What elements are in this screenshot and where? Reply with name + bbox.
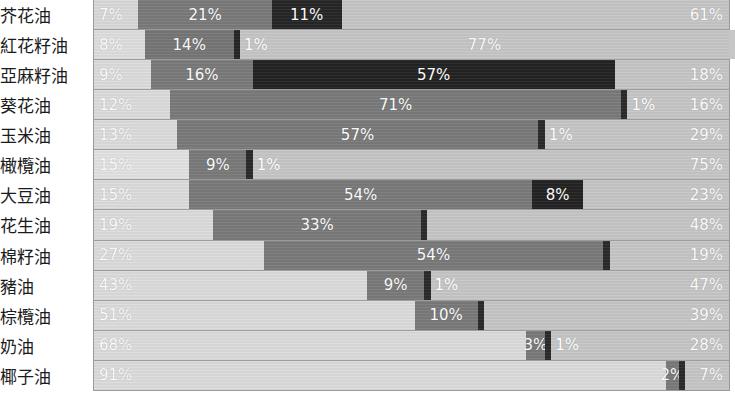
bar-segment: 11% (272, 0, 342, 29)
segment-value-label: 13% (99, 126, 132, 144)
chart-row: 豬油43%9%1%47%1% (0, 271, 730, 300)
segment-value-label: 47% (690, 276, 723, 294)
bar-segment: 77% (240, 30, 729, 59)
stacked-bar: 8%14%1%77%1%1% (93, 30, 730, 59)
bar-segment: 47% (431, 271, 729, 300)
bar-segment: 18% (615, 60, 729, 89)
segment-value-label: 9% (206, 156, 230, 174)
segment-value-label: 19% (99, 216, 132, 234)
stacked-bar: 51%10%39% (93, 301, 730, 330)
bar-segment: 68% (94, 331, 526, 360)
segment-value-label: 75% (690, 156, 723, 174)
segment-value-label: 8% (546, 186, 570, 204)
stacked-bar: 7%21%11%61% (93, 0, 730, 29)
chart-row: 橄欖油15%9%1%75%1% (0, 150, 730, 179)
segment-value-label: 8% (99, 36, 123, 54)
segment-value-label: 57% (417, 66, 450, 84)
segment-value-label: 23% (690, 186, 723, 204)
category-label: 奶油 (0, 331, 93, 360)
segment-value-label: 54% (344, 186, 377, 204)
category-label: 芥花油 (0, 0, 93, 29)
segment-value-label: 14% (173, 36, 206, 54)
segment-value-label: 11% (290, 6, 323, 24)
stacked-bar: 43%9%1%47%1% (93, 271, 730, 300)
chart-row: 花生油19%33%48% (0, 210, 730, 239)
category-label: 大豆油 (0, 180, 93, 209)
category-label: 棕欖油 (0, 301, 93, 330)
segment-value-label: 61% (690, 6, 723, 24)
bar-segment: 14% (145, 30, 234, 59)
chart-row: 奶油68%3%1%28%1% (0, 331, 730, 360)
category-label: 橄欖油 (0, 150, 93, 179)
bar-segment: 57% (253, 60, 615, 89)
segment-value-label: 18% (690, 66, 723, 84)
bar-segment: 54% (189, 180, 532, 209)
segment-value-label: 7% (99, 6, 123, 24)
stacked-bar: 9%16%57%18% (93, 60, 730, 89)
bar-segment: 19% (610, 241, 729, 270)
category-label: 亞麻籽油 (0, 60, 93, 89)
bar-segment: 16% (151, 60, 253, 89)
segment-value-label: 12% (99, 96, 132, 114)
segment-value-label: 9% (99, 66, 123, 84)
stacked-bar: 19%33%48% (93, 210, 730, 239)
bar-segment: 51% (94, 301, 415, 330)
chart-row: 紅花籽油8%14%1%77%1%1% (0, 30, 730, 59)
segment-value-label: 54% (417, 246, 450, 264)
bar-segment: 8% (94, 30, 145, 59)
chart-row: 葵花油12%71%1%16%1% (0, 90, 730, 119)
stacked-bar: 15%9%1%75%1% (93, 150, 730, 179)
segment-value-label: 51% (99, 306, 132, 324)
bar-segment: 15% (94, 180, 189, 209)
chart-rows-container: 芥花油7%21%11%61%紅花籽油8%14%1%77%1%1%亞麻籽油9%16… (0, 0, 730, 391)
bar-segment: 9% (367, 271, 424, 300)
segment-value-label: 29% (690, 126, 723, 144)
segment-value-label: 43% (99, 276, 132, 294)
stacked-bar: 12%71%1%16%1% (93, 90, 730, 119)
bar-segment: 43% (94, 271, 367, 300)
segment-value-label: 21% (188, 6, 221, 24)
bar-segment: 27% (94, 241, 264, 270)
segment-value-label: 71% (379, 96, 412, 114)
segment-value-label: 16% (690, 96, 723, 114)
bar-segment: 9% (94, 60, 151, 89)
stacked-bar: 27%54%19% (93, 241, 730, 270)
segment-value-label: 27% (99, 246, 132, 264)
chart-row: 棕欖油51%10%39% (0, 301, 730, 330)
segment-value-label: 68% (99, 336, 132, 354)
bar-segment: 29% (545, 120, 729, 149)
bar-segment: 33% (213, 210, 420, 239)
segment-value-label: 16% (185, 66, 218, 84)
bar-segment: 8% (532, 180, 583, 209)
bar-segment: 57% (177, 120, 539, 149)
stacked-bar: 15%54%8%23% (93, 180, 730, 209)
chart-row: 亞麻籽油9%16%57%18% (0, 60, 730, 89)
bar-segment: 48% (427, 210, 729, 239)
bar-segment: 16% (627, 90, 729, 119)
segment-value-label: 10% (429, 306, 462, 324)
chart-axis-area (93, 381, 716, 395)
bar-segment: 12% (94, 90, 170, 119)
bar-segment: 61% (342, 0, 729, 29)
segment-value-label: 77% (468, 36, 501, 54)
segment-value-label: 39% (690, 306, 723, 324)
chart-row: 玉米油13%57%1%29%1% (0, 120, 730, 149)
category-label: 花生油 (0, 210, 93, 239)
bar-segment: 13% (94, 120, 177, 149)
chart-row: 芥花油7%21%11%61% (0, 0, 730, 29)
bar-segment: 23% (583, 180, 729, 209)
bar-segment: 10% (415, 301, 478, 330)
bar-segment: 19% (94, 210, 213, 239)
segment-value-label: 9% (384, 276, 408, 294)
bar-segment: 39% (484, 301, 729, 330)
bar-segment: 21% (138, 0, 271, 29)
segment-value-label: 57% (341, 126, 374, 144)
bar-segment: 7% (94, 0, 138, 29)
segment-value-label: 15% (99, 186, 132, 204)
category-label: 棉籽油 (0, 241, 93, 270)
bar-segment: 28% (551, 331, 729, 360)
segment-value-label: 15% (99, 156, 132, 174)
category-label: 葵花油 (0, 90, 93, 119)
bar-segment: 15% (94, 150, 189, 179)
